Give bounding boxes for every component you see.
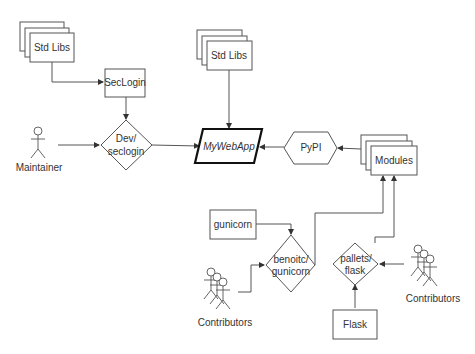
actor-icon xyxy=(31,127,45,158)
actor-group-icon xyxy=(411,245,437,286)
dev-seclogin-label-2: seclogin xyxy=(108,146,145,157)
edge-modules-pypi xyxy=(338,148,361,149)
node-dev-seclogin[interactable]: Dev/ seclogin xyxy=(101,120,152,170)
architecture-diagram: Std Libs SecLogin Dev/ seclogin Maintain… xyxy=(0,0,475,354)
node-benoitc-gunicorn[interactable]: benoitc/ gunicorn xyxy=(266,235,315,292)
node-flask[interactable]: Flask xyxy=(333,310,377,339)
contributors-right-label: Contributors xyxy=(406,293,460,304)
std-libs-center-label: Std Libs xyxy=(211,50,247,61)
node-pallets-flask[interactable]: pallets/ flask xyxy=(333,243,378,285)
node-maintainer[interactable]: Maintainer xyxy=(16,127,63,173)
pallets-flask-label-1: pallets/ xyxy=(340,253,372,264)
seclogin-label: SecLogin xyxy=(104,77,146,88)
edge-stdlibs-seclogin xyxy=(52,62,103,82)
modules-label: Modules xyxy=(375,155,413,166)
edge-pallets-modules xyxy=(375,176,394,243)
maintainer-label: Maintainer xyxy=(16,162,63,173)
node-gunicorn[interactable]: gunicorn xyxy=(210,210,256,239)
node-contributors-left[interactable]: Contributors xyxy=(198,268,252,328)
node-mywebapp[interactable]: MyWebApp xyxy=(195,129,262,163)
edge-contributors-benoitc xyxy=(238,265,264,292)
mywebapp-label: MyWebApp xyxy=(203,141,255,152)
node-seclogin[interactable]: SecLogin xyxy=(104,69,146,97)
node-contributors-right[interactable]: Contributors xyxy=(406,245,460,304)
edge-dev-mywebapp xyxy=(152,145,199,146)
benoitc-gunicorn-label-1: benoitc/ xyxy=(273,254,308,265)
node-pypi[interactable]: PyPI xyxy=(284,132,337,164)
pallets-flask-label-2: flask xyxy=(345,265,367,276)
node-std-libs-left[interactable]: Std Libs xyxy=(20,22,74,62)
dev-seclogin-label-1: Dev/ xyxy=(116,133,137,144)
std-libs-left-label: Std Libs xyxy=(34,42,70,53)
benoitc-gunicorn-label-2: gunicorn xyxy=(272,266,310,277)
contributors-left-label: Contributors xyxy=(198,317,252,328)
edge-gunicorn-benoitc xyxy=(256,224,291,234)
node-std-libs-center[interactable]: Std Libs xyxy=(197,30,252,70)
actor-group-icon xyxy=(204,268,230,309)
node-modules[interactable]: Modules xyxy=(361,135,417,175)
flask-label: Flask xyxy=(343,319,368,330)
gunicorn-label: gunicorn xyxy=(214,219,252,230)
pypi-label: PyPI xyxy=(300,142,321,153)
